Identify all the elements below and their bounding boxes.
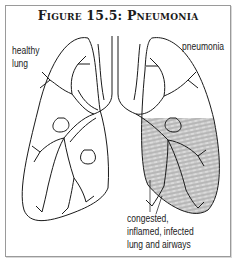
label-line: healthy <box>12 44 39 57</box>
label-healthy-lung: healthy lung <box>12 44 39 70</box>
label-pneumonia: pneumonia <box>182 40 224 53</box>
label-line: lung <box>12 57 39 70</box>
label-line: inflamed, infected <box>127 225 194 238</box>
label-infected-lung: congested, inflamed, infected lung and a… <box>127 212 194 251</box>
pneumonia-lung <box>134 38 228 228</box>
label-line: lung and airways <box>127 238 194 251</box>
label-line: congested, <box>127 212 194 225</box>
